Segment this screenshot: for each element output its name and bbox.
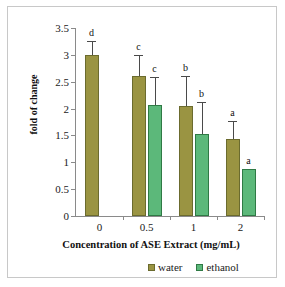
- y-tick-label: 0: [29, 211, 69, 222]
- error-bar-stem: [202, 102, 203, 134]
- error-bar-stem: [155, 77, 156, 105]
- error-bar-stem: [92, 41, 93, 54]
- error-bar-cap: [150, 77, 159, 78]
- significance-letter: c: [127, 42, 151, 52]
- significance-letter: c: [143, 64, 167, 74]
- error-bar-stem: [139, 55, 140, 76]
- x-tick: [123, 216, 124, 220]
- bar-water-0.5: [132, 76, 146, 216]
- significance-letter: b: [174, 63, 198, 73]
- bar-ethanol-0.5: [148, 105, 162, 216]
- y-tick: [71, 216, 76, 217]
- bar-water-0: [85, 55, 99, 216]
- bar-water-1: [179, 106, 193, 216]
- x-tick-label: 1: [172, 222, 216, 233]
- x-tick: [264, 216, 265, 220]
- significance-letter: a: [237, 156, 261, 166]
- x-axis-title: Concentration of ASE Extract (mg/mL): [26, 239, 276, 250]
- y-tick-label: 0.5: [29, 184, 69, 195]
- error-bar-stem: [233, 121, 234, 139]
- error-bar-cap: [87, 41, 96, 42]
- bar-water-2: [226, 139, 240, 216]
- legend-label: ethanol: [206, 262, 238, 273]
- x-tick-label: 0: [78, 222, 122, 233]
- error-bar-cap: [181, 76, 190, 77]
- chart-legend: waterethanol: [148, 262, 239, 273]
- bar-ethanol-1: [195, 134, 209, 216]
- legend-item-ethanol: ethanol: [196, 262, 238, 273]
- y-axis-title: fold of change: [28, 50, 39, 160]
- figure-frame: 00.511.522.533.5 00.512 fold of change C…: [7, 6, 277, 278]
- error-bar-cap: [197, 102, 206, 103]
- legend-swatch-icon: [148, 264, 155, 271]
- x-tick-label: 2: [219, 222, 263, 233]
- error-bar-cap: [134, 55, 143, 56]
- y-tick-label: 3.5: [29, 23, 69, 34]
- error-bar-stem: [186, 76, 187, 107]
- bar-ethanol-2: [242, 169, 256, 216]
- x-tick: [170, 216, 171, 220]
- significance-letter: b: [190, 89, 214, 99]
- x-tick-label: 0.5: [125, 222, 169, 233]
- error-bar-cap: [228, 121, 237, 122]
- x-tick: [217, 216, 218, 220]
- legend-item-water: water: [148, 262, 182, 273]
- legend-label: water: [158, 262, 182, 273]
- significance-letter: d: [80, 28, 104, 38]
- legend-swatch-icon: [196, 264, 203, 271]
- significance-letter: a: [221, 108, 245, 118]
